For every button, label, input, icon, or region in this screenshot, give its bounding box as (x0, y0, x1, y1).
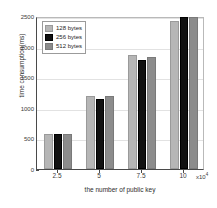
legend: 128 bytes256 bytes512 bytes (42, 21, 86, 54)
y-tick-label: 1000 (4, 106, 34, 112)
x-tick-mark (183, 170, 184, 173)
x-tick-label: 7.5 (121, 172, 161, 179)
y-axis-title: time consumption(ms) (18, 11, 25, 121)
y-tick-label: 0 (4, 167, 34, 173)
x-tick-label: 5 (79, 172, 119, 179)
bar (63, 134, 72, 169)
bar (44, 134, 53, 169)
bar (105, 96, 114, 169)
y-tick-label: 500 (4, 136, 34, 142)
legend-item: 128 bytes (45, 24, 82, 33)
x-tick-mark (57, 170, 58, 173)
x-exponent-base: x10 (196, 174, 206, 180)
bar (147, 57, 156, 169)
bar (138, 60, 147, 169)
legend-swatch-icon (45, 25, 53, 32)
bar (86, 96, 95, 169)
bar (96, 99, 105, 169)
gridline (37, 18, 203, 19)
bar (170, 21, 179, 169)
legend-swatch-icon (45, 34, 53, 41)
x-axis-title: the number of public key (36, 186, 204, 193)
y-tick-label: 2000 (4, 45, 34, 51)
bar (128, 55, 137, 169)
y-tick-label: 2500 (4, 14, 34, 20)
bar (54, 134, 63, 169)
legend-item: 256 bytes (45, 33, 82, 42)
legend-item-label: 128 bytes (56, 25, 82, 32)
legend-item: 512 bytes (45, 42, 82, 51)
legend-item-label: 512 bytes (56, 43, 82, 50)
x-tick-mark (99, 170, 100, 173)
bar (180, 17, 189, 169)
x-exponent-power: 4 (206, 172, 209, 177)
chart-figure: time consumption(ms) 0500100015002000250… (0, 0, 217, 208)
x-tick-label: 2.5 (37, 172, 77, 179)
bar (189, 17, 198, 169)
x-tick-mark (141, 170, 142, 173)
x-axis-exponent: x104 (196, 172, 208, 180)
legend-item-label: 256 bytes (56, 34, 82, 41)
legend-swatch-icon (45, 43, 53, 50)
y-tick-label: 1500 (4, 75, 34, 81)
y-tick-mark (36, 170, 39, 171)
